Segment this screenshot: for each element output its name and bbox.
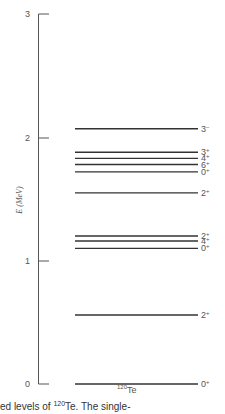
- energy-level-diagram: 3 2 1 0 E (MeV) 0+2+0+4+2+2+0+6+4+3+3−: [0, 0, 225, 414]
- energy-axis: [39, 14, 50, 384]
- level-spin-parity-label: 3−: [201, 124, 210, 134]
- figure-caption: ed levels of 120Te. The single-: [0, 400, 225, 412]
- tick-label-1: 1: [25, 256, 30, 266]
- level-spin-parity-label: 2+: [201, 310, 210, 320]
- tick-label-0: 0: [25, 379, 30, 389]
- energy-levels: 0+2+0+4+2+2+0+6+4+3+3−: [75, 124, 210, 389]
- level-spin-parity-label: 2+: [201, 188, 210, 198]
- tick-label-2: 2: [25, 133, 30, 143]
- tick-label-3: 3: [25, 9, 30, 19]
- level-spin-parity-label: 0+: [201, 379, 210, 389]
- nuclide-label: 120Te: [117, 384, 137, 395]
- axis-title: E (MeV): [15, 186, 24, 215]
